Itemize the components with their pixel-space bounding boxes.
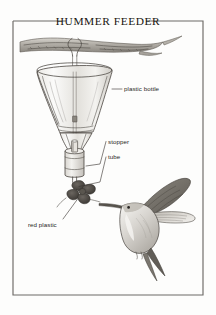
label-tube: tube	[108, 153, 121, 160]
plastic-bottle	[37, 63, 112, 150]
hummer-feeder-figure: HUMMER FEEDER	[0, 0, 216, 315]
red-plastic-flower	[57, 181, 100, 207]
label-stopper: stopper	[108, 138, 129, 145]
leader-stopper	[86, 142, 106, 167]
figure-title: HUMMER FEEDER	[56, 15, 160, 27]
label-red-plastic: red plastic	[28, 221, 57, 228]
leader-red-plastic	[63, 199, 78, 220]
label-plastic-bottle: plastic bottle	[124, 85, 160, 92]
tree-branch	[20, 36, 182, 55]
hummingbird	[99, 178, 195, 281]
figure-canvas: HUMMER FEEDER	[0, 0, 216, 315]
